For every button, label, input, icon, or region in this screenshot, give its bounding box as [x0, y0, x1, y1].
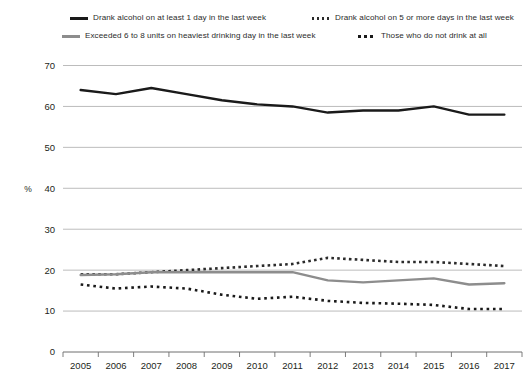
y-axis-tick-label: 60 [44, 101, 55, 112]
x-axis-tick-label: 2006 [105, 360, 126, 371]
x-axis-tick-label: 2009 [211, 360, 232, 371]
x-axis-tick-label: 2012 [317, 360, 338, 371]
x-axis-tick-label: 2014 [388, 360, 409, 371]
x-axis-tick-label: 2007 [141, 360, 162, 371]
series-line-3 [81, 284, 505, 309]
y-axis-tick-label: 50 [44, 142, 55, 153]
x-axis-tick-label: 2008 [176, 360, 197, 371]
y-axis-tick-label: 20 [44, 265, 55, 276]
x-axis-tick-label: 2016 [458, 360, 479, 371]
x-axis-tick-label: 2015 [423, 360, 444, 371]
y-axis-tick-label: 10 [44, 305, 55, 316]
series-line-2 [81, 272, 505, 284]
y-axis-tick-label: 40 [44, 183, 55, 194]
chart-plot-area: 010203040506070 200520062007200820092010… [0, 0, 531, 387]
y-axis-tick-label: 70 [44, 60, 55, 71]
series-line-0 [81, 88, 505, 115]
x-axis-tick-label: 2013 [353, 360, 374, 371]
x-axis-tick-label: 2011 [282, 360, 302, 371]
chart-gridlines [63, 66, 522, 353]
chart-x-axis-labels: 2005200620072008200920102011201220132014… [70, 360, 515, 371]
x-axis-tick-label: 2017 [494, 360, 515, 371]
y-axis-tick-label: 0 [50, 346, 55, 357]
chart-x-axis-ticks [63, 352, 522, 357]
y-axis-tick-label: 30 [44, 224, 55, 235]
chart-container: Drank alcohol on at least 1 day in the l… [0, 0, 531, 387]
chart-series-group [81, 88, 505, 309]
x-axis-tick-label: 2010 [247, 360, 268, 371]
chart-y-axis-labels: 010203040506070 [44, 60, 55, 358]
x-axis-tick-label: 2005 [70, 360, 91, 371]
y-axis-title: % [24, 184, 32, 194]
